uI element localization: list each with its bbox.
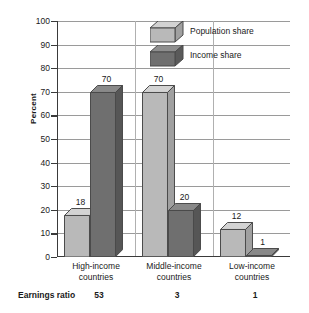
category-label-2: Low-incomecountries <box>205 261 299 282</box>
y-tick-label-30: 30 <box>24 181 50 191</box>
gridline-80 <box>57 68 290 69</box>
group-separator-1 <box>135 21 136 257</box>
legend-swatch-population-share <box>150 21 184 43</box>
earnings-ratio-value-2: 1 <box>230 290 280 300</box>
bar-2-1 <box>246 248 279 257</box>
bar-value-label-2-0: 12 <box>223 211 251 221</box>
earnings-ratio-value-0: 53 <box>74 290 124 300</box>
y-tick-label-20: 20 <box>24 205 50 215</box>
legend-label-income-share: Income share <box>190 50 242 60</box>
bar-chart: Percent 1009080706050403020100 187070201… <box>0 0 309 313</box>
bar-value-label-0-1: 70 <box>93 74 121 84</box>
y-tick-label-70: 70 <box>24 87 50 97</box>
bar-value-label-1-1: 20 <box>171 192 199 202</box>
y-axis-line <box>57 21 58 257</box>
y-tick-label-100: 100 <box>24 16 50 26</box>
bar-value-label-2-1: 1 <box>249 237 277 247</box>
category-label-line1-2: Low-income <box>205 261 299 272</box>
legend-swatch-income-share <box>150 45 184 67</box>
y-tick-label-0: 0 <box>24 252 50 262</box>
category-label-line2-2: countries <box>205 272 299 283</box>
y-tick-label-90: 90 <box>24 40 50 50</box>
bar-0-1 <box>90 85 123 257</box>
y-tick-label-10: 10 <box>24 228 50 238</box>
earnings-ratio-label: Earnings ratio <box>18 290 75 300</box>
y-tick-label-60: 60 <box>24 110 50 120</box>
y-tick-label-40: 40 <box>24 158 50 168</box>
y-tick-label-80: 80 <box>24 63 50 73</box>
bar-value-label-0-0: 18 <box>67 197 95 207</box>
earnings-ratio-value-1: 3 <box>152 290 202 300</box>
legend-label-population-share: Population share <box>190 26 254 36</box>
y-tick-mark-0 <box>51 257 57 258</box>
y-tick-label-50: 50 <box>24 134 50 144</box>
bar-1-1 <box>168 203 201 257</box>
bar-value-label-1-0: 70 <box>145 74 173 84</box>
